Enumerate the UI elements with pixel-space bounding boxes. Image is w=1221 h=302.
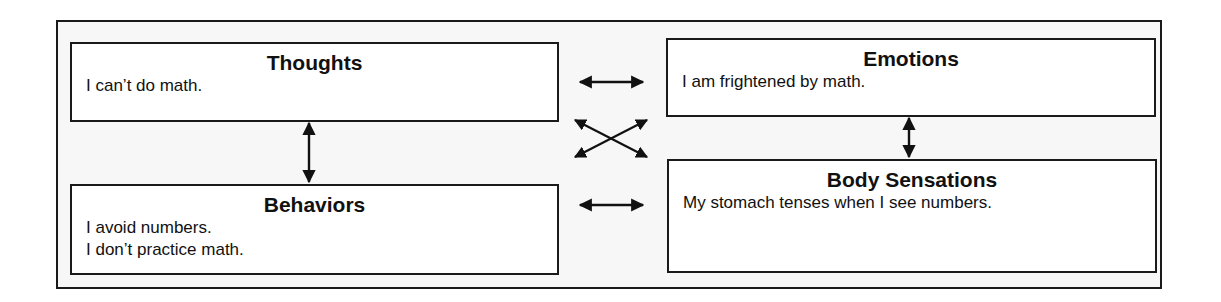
thoughts-text-line: I can’t do math. (72, 75, 557, 97)
body-sensations-title: Body Sensations (669, 168, 1155, 192)
behaviors-text-line-1: I avoid numbers. (72, 217, 557, 239)
emotions-box: Emotions I am frightened by math. (666, 38, 1156, 117)
behaviors-text-line-2: I don’t practice math. (72, 239, 557, 261)
thoughts-box: Thoughts I can’t do math. (70, 42, 559, 122)
emotions-title: Emotions (668, 47, 1154, 71)
emotions-text-line: I am frightened by math. (668, 71, 1154, 93)
body-sensations-box: Body Sensations My stomach tenses when I… (667, 159, 1157, 273)
behaviors-box: Behaviors I avoid numbers. I don’t pract… (70, 184, 559, 275)
behaviors-title: Behaviors (72, 193, 557, 217)
thoughts-title: Thoughts (72, 51, 557, 75)
body-sensations-text-line: My stomach tenses when I see numbers. (669, 192, 1155, 214)
